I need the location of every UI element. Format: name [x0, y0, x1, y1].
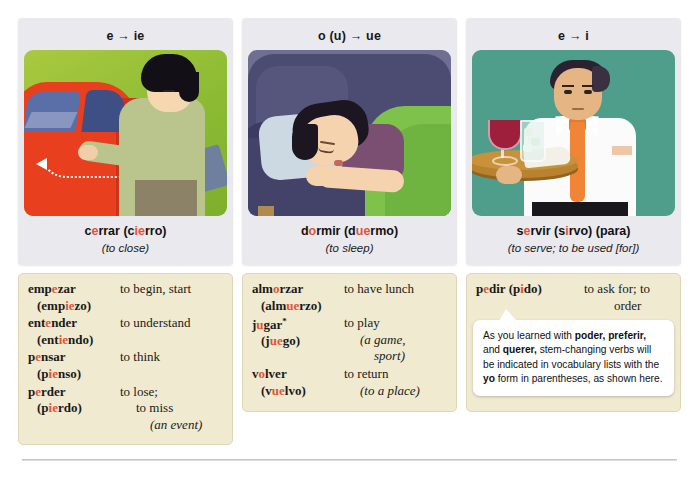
waiter-with-tray-illustration: [472, 50, 675, 216]
closing-car-door-illustration: [24, 50, 227, 216]
vocab-meaning-line: to miss: [120, 400, 223, 417]
vocab-meaning-line: order: [584, 298, 671, 315]
vocab-infinitive: empezar(empiezo): [28, 281, 120, 314]
waiter-hair-side: [592, 66, 610, 92]
vocab-entry: jugar*(juego)to play(a game,sport): [252, 315, 447, 365]
vocab-entry: entender(entiendo)to understand: [28, 315, 223, 348]
caption-2: servir (sirvo) (para) (to serve; to be u…: [472, 216, 675, 258]
column-header-2: e → i: [472, 24, 675, 50]
wine-glass-foot: [492, 156, 518, 166]
vocab-entry: almorzar(almuerzo)to have lunch: [252, 281, 447, 314]
vocab-infinitive: jugar*(juego): [252, 315, 344, 365]
bottom-divider: [22, 459, 677, 461]
waiter-eye-right: [584, 90, 592, 94]
wine-glass-bowl: [488, 120, 522, 150]
column-header-1: o (u) → ue: [248, 24, 451, 50]
vocab-meaning-line: (to a place): [344, 383, 447, 400]
couch-leg: [258, 206, 274, 216]
vocab-infinitive: pensar(pienso): [28, 349, 120, 382]
vocab-meaning-line: (a game,: [344, 332, 447, 349]
column-o-to-ue: o (u) → ue: [242, 18, 457, 445]
stem-change-columns: e → ie: [18, 18, 681, 445]
textbook-page: e → ie: [0, 0, 699, 481]
vocab-meaning: to lose;to miss(an event): [120, 384, 223, 434]
vocab-entry: empezar(empiezo)to begin, start: [28, 281, 223, 314]
caption-english-0: (to close): [26, 240, 225, 256]
waiter-hand: [496, 166, 522, 184]
sleeper-hand: [306, 166, 334, 186]
vocab-infinitive: perder(pierdo): [28, 384, 120, 434]
vocab-entry: pensar(pienso)to think: [28, 349, 223, 382]
waiter-eyebrow-left: [562, 85, 574, 87]
card-e-to-i: e → i: [466, 18, 681, 265]
waiter-pocket-square: [612, 146, 632, 155]
vocab-meaning-line: sport): [344, 348, 447, 365]
vocab-infinitive: almorzar(almuerzo): [252, 281, 344, 314]
vocab-list-0: empezar(empiezo)to begin, startentender(…: [18, 273, 233, 445]
vocab-meaning: to have lunch: [344, 281, 447, 314]
waiter-mouth: [572, 108, 584, 110]
vocab-yo-form: (entiendo): [28, 332, 120, 349]
caption-english-2: (to serve; to be used [for]): [474, 240, 673, 256]
ice-cube-2: [531, 138, 540, 146]
vocab-entry: volver(vuelvo)to return(to a place): [252, 366, 447, 399]
vocab-infinitive: volver(vuelvo): [252, 366, 344, 399]
waiter-eyebrow-right: [582, 85, 594, 87]
vocab-meaning: to ask for; toorder: [584, 281, 671, 314]
vocab-meaning: to play(a game,sport): [344, 315, 447, 365]
vocab-yo-form: (juego): [252, 333, 344, 350]
vocab-list-2: As you learned with poder, preferir, and…: [466, 273, 681, 412]
motion-arrow-head-icon: [36, 158, 47, 170]
caption-spanish-1: dormir (duermo): [250, 223, 449, 240]
person-hand: [78, 145, 98, 160]
sleeper-hair-front: [292, 124, 318, 160]
sleeping-on-couch-illustration: [248, 50, 451, 216]
person-eye: [163, 90, 175, 92]
caption-spanish-2: servir (sirvo) (para): [474, 223, 673, 240]
vocab-yo-form: (vuelvo): [252, 383, 344, 400]
vocab-infinitive: entender(entiendo): [28, 315, 120, 348]
caption-english-1: (to sleep): [250, 240, 449, 256]
car-window-glare: [24, 112, 77, 128]
sleeper-mouth: [334, 160, 343, 166]
vocab-meaning-line: (an event): [120, 417, 223, 434]
vocab-meaning: to begin, start: [120, 281, 223, 314]
column-header-0: e → ie: [24, 24, 227, 50]
ice-cube-1: [524, 128, 533, 136]
waiter-eye-left: [564, 90, 572, 94]
column-e-to-i: e → i: [466, 18, 681, 445]
note-callout: As you learned with poder, preferir, and…: [473, 320, 674, 396]
caption-1: dormir (duermo) (to sleep): [248, 216, 451, 258]
caption-0: cerrar (cierro) (to close): [24, 216, 227, 258]
person-hair-side: [179, 72, 199, 102]
vocab-meaning: to understand: [120, 315, 223, 348]
card-e-to-ie: e → ie: [18, 18, 233, 265]
vocab-meaning: to return(to a place): [344, 366, 447, 399]
vocab-yo-form: (empiezo): [28, 298, 120, 315]
card-o-to-ue: o (u) → ue: [242, 18, 457, 265]
vocab-yo-form: (pienso): [28, 366, 120, 383]
vocab-infinitive: pedir (pido): [476, 281, 584, 314]
vocab-meaning: to think: [120, 349, 223, 382]
person-pants: [135, 180, 197, 216]
column-e-to-ie: e → ie: [18, 18, 233, 445]
vocab-yo-form: (almuerzo): [252, 298, 344, 315]
caption-spanish-0: cerrar (cierro): [26, 223, 225, 240]
ice-cube-3: [523, 144, 532, 152]
vocab-entry: perder(pierdo)to lose;to miss(an event): [28, 384, 223, 434]
waiter-pants: [532, 202, 628, 216]
vocab-yo-form: (pierdo): [28, 400, 120, 417]
vocab-list-1: almorzar(almuerzo)to have lunchjugar*(ju…: [242, 273, 457, 412]
